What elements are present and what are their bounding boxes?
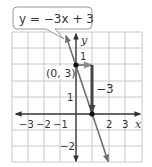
grid xyxy=(12,32,142,162)
x-intercept-point xyxy=(89,111,94,116)
x-axis-label: x xyxy=(135,118,142,131)
x-tick-label: 2 xyxy=(106,119,112,130)
run-label: 1 xyxy=(80,51,86,62)
graph-figure: y x −3 −2 −1 2 3 1 −2 (0, 3) 1 −3 y = −3… xyxy=(0,0,152,167)
x-tick-label: −3 xyxy=(19,119,34,130)
x-tick-label: −2 xyxy=(36,119,51,130)
x-tick-label: −1 xyxy=(53,119,68,130)
y-tick-label: −2 xyxy=(60,141,75,152)
y-axis-label: y xyxy=(80,34,88,47)
y-tick-label: 1 xyxy=(67,92,73,103)
x-tick-label: 3 xyxy=(122,119,128,130)
rise-label: −3 xyxy=(96,82,114,96)
equation-text: y = −3x + 3 xyxy=(19,12,94,26)
point-label: (0, 3) xyxy=(46,67,76,80)
